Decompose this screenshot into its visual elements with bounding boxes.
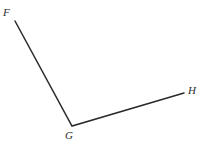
point-label-g: G xyxy=(65,130,73,141)
point-label-f: F xyxy=(3,7,10,18)
angle-polyline-fgh xyxy=(15,21,184,126)
point-label-h: H xyxy=(188,85,196,96)
angle-figure: F G H xyxy=(0,0,205,155)
angle-diagram-svg xyxy=(0,0,205,155)
